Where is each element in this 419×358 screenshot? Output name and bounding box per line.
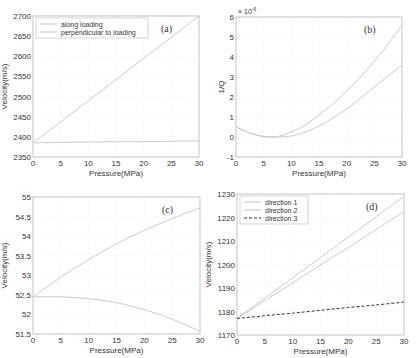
y-tick-label: 51.5: [15, 330, 31, 339]
y-tick-label: 1230: [217, 190, 235, 199]
x-tick-label: 20: [140, 336, 149, 345]
x-tick-label: 30: [400, 337, 409, 346]
x-axis-label: Pressure(MPa): [292, 169, 346, 178]
legend-entry: perpendicular to loading: [61, 29, 136, 37]
x-tick-label: 30: [196, 336, 205, 345]
y-tick-label: 52.5: [15, 291, 31, 300]
x-tick-label: 10: [84, 159, 93, 168]
x-tick-label: 15: [112, 159, 121, 168]
y-axis-label: Velocity(m/s): [0, 63, 9, 109]
series-line-3: [237, 302, 404, 318]
x-tick-label: 15: [316, 337, 325, 346]
panel-label: (d): [366, 201, 378, 213]
x-tick-label: 10: [84, 336, 93, 345]
y-tick-label: 6: [230, 13, 235, 22]
y-tick-label: 54: [22, 232, 31, 241]
legend: direction 1direction 2direction 3: [240, 196, 308, 224]
x-axis-label: Pressure(MPa): [294, 347, 348, 356]
figure-canvas: 0510152025302350240024502500255026002650…: [0, 0, 419, 358]
x-tick-label: 10: [288, 337, 297, 346]
chart-panel-b: 051015202530-10123456Pressure(MPa)1/Q× 1…: [217, 6, 407, 178]
x-tick-label: 20: [344, 337, 353, 346]
y-tick-label: 2650: [13, 32, 31, 41]
x-tick-label: 5: [58, 159, 63, 168]
legend-entry: along loading: [61, 21, 103, 29]
legend-entry: direction 2: [265, 207, 297, 214]
legend: along loadingperpendicular to loading: [36, 18, 148, 38]
y-tick-label: 1180: [218, 308, 236, 317]
legend-entry: direction 3: [265, 215, 297, 222]
x-axis-label: Pressure(MPa): [89, 169, 143, 178]
y-tick-label: 4: [230, 53, 235, 62]
x-axis-label: Pressure(MPa): [90, 346, 144, 355]
y-tick-label: 55: [22, 193, 31, 202]
x-tick-label: 25: [167, 159, 176, 168]
x-tick-label: 5: [261, 159, 266, 168]
panel-label: (a): [161, 23, 172, 35]
y-axis-label: 1/Q: [217, 81, 226, 94]
x-tick-label: 20: [342, 159, 351, 168]
chart-panel-d: 0510152025301170118011901200121012201230…: [204, 190, 409, 356]
y-tick-label: 1210: [217, 237, 235, 246]
y-tick-label: 53: [22, 271, 31, 280]
y-tick-label: 2400: [13, 133, 31, 142]
chart-panel-c: 05101520253051.55252.55353.55454.555Pres…: [0, 193, 205, 355]
y-multiplier: × 10-6: [238, 6, 256, 15]
x-tick-label: 30: [398, 159, 407, 168]
x-tick-label: 25: [372, 337, 381, 346]
y-tick-label: 5: [230, 33, 235, 42]
x-tick-label: 5: [263, 337, 268, 346]
y-tick-label: 0: [230, 133, 235, 142]
panel-label: (c): [162, 204, 173, 216]
x-tick-label: 25: [168, 336, 177, 345]
y-tick-label: 2: [230, 93, 235, 102]
y-tick-label: 2450: [13, 113, 31, 122]
x-tick-label: 0: [234, 159, 239, 168]
y-tick-label: 54.5: [15, 213, 31, 222]
x-tick-label: 0: [235, 337, 240, 346]
x-tick-label: 5: [59, 336, 64, 345]
x-tick-label: 30: [195, 159, 204, 168]
y-tick-label: 2600: [13, 52, 31, 61]
x-tick-label: 10: [287, 159, 296, 168]
y-tick-label: 1190: [218, 284, 236, 293]
y-tick-label: 3: [230, 73, 235, 82]
y-tick-label: 1170: [218, 331, 236, 340]
y-tick-label: 2500: [13, 93, 31, 102]
panel-label: (b): [364, 24, 376, 36]
y-tick-label: 1200: [217, 261, 235, 270]
x-tick-label: 0: [31, 159, 36, 168]
legend-entry: direction 1: [265, 199, 297, 206]
y-tick-label: 52: [22, 310, 31, 319]
y-tick-label: 2700: [13, 12, 31, 21]
y-axis-label: Velocity(m/s): [0, 242, 9, 288]
x-tick-label: 0: [31, 336, 36, 345]
chart-panel-a: 0510152025302350240024502500255026002650…: [0, 12, 204, 178]
y-tick-label: 1: [230, 113, 235, 122]
y-tick-label: 2350: [13, 153, 31, 162]
y-tick-label: 2550: [13, 72, 31, 81]
y-tick-label: 53.5: [15, 252, 31, 261]
x-tick-label: 15: [112, 336, 121, 345]
x-tick-label: 20: [139, 159, 148, 168]
y-tick-label: 1220: [217, 214, 235, 223]
y-tick-label: -1: [227, 153, 235, 162]
y-axis-label: Velocity(m/s): [204, 241, 213, 287]
x-tick-label: 25: [370, 159, 379, 168]
x-tick-label: 15: [315, 159, 324, 168]
